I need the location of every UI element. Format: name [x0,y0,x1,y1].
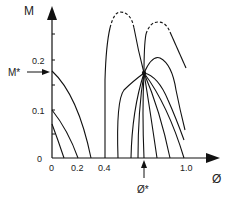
phi-star-arrow-icon [141,160,147,168]
curve-5-tail [170,32,186,68]
y-axis-label: M [24,4,34,18]
fan-curve-h [144,58,185,130]
fan-curve-d [143,73,144,158]
x-tick-0.4: 0.4 [98,163,111,173]
fan-curve-g [144,73,184,158]
y-tick-0: 0 [37,154,42,164]
m-star-arrow-icon [42,69,50,75]
x-tick-0: 0 [49,163,54,173]
curve-5-dashed [146,22,170,34]
m-star-label: M* [8,67,20,78]
fan-curve-e [144,73,157,158]
x-axis-arrow-icon [206,153,220,163]
curve-4-dashed [110,12,134,28]
x-tick-0.2: 0.2 [71,163,84,173]
curve-1 [52,124,64,158]
x-axis-label: Ø [212,172,221,186]
phi-star-label: Ø* [137,184,149,195]
y-axis-arrow-icon [47,6,57,20]
curve-4-lower [134,28,144,73]
y-tick-0.2: 0.2 [32,56,45,66]
phase-diagram: M 0.2 0.1 0 M* 0 0.2 0.4 1.0 Ø Ø* [0,0,230,208]
curve-3 [52,71,91,158]
x-tick-1.0: 1.0 [180,163,193,173]
curve-4 [105,28,110,158]
fan-curve-f [144,73,170,158]
y-tick-0.1: 0.1 [32,106,45,116]
crossing-point [142,71,146,75]
curve-5 [144,34,146,73]
